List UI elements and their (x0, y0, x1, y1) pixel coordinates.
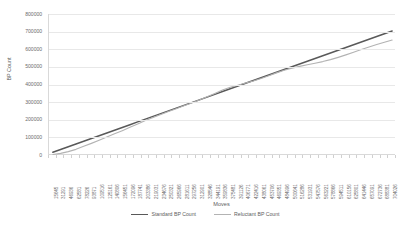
x-tick-label: 31291 (61, 187, 66, 199)
legend-item[interactable]: Reluctant BP Count (214, 211, 279, 217)
x-tick-label: 297256 (192, 184, 197, 199)
x-tick-mark (141, 155, 142, 158)
x-tick-label: 172096 (131, 184, 136, 199)
x-tick-mark (349, 155, 350, 158)
x-tick-mark (356, 155, 357, 158)
x-tick-mark (48, 155, 49, 158)
gridline (49, 102, 395, 103)
x-tick-label: 250321 (169, 184, 174, 199)
x-tick-label: 516286 (300, 184, 305, 199)
x-tick-mark (333, 155, 334, 158)
y-tick-label: 600000 (25, 46, 42, 53)
legend-swatch-icon (131, 214, 148, 215)
x-axis-tick-marks (48, 155, 395, 159)
x-tick-label: 93871 (92, 187, 97, 199)
x-tick-mark (202, 155, 203, 158)
x-tick-mark (187, 155, 188, 158)
x-tick-label: 109516 (100, 184, 105, 199)
x-tick-label: 438061 (262, 184, 267, 199)
x-tick-label: 594511 (339, 185, 344, 199)
x-tick-mark (225, 155, 226, 158)
x-tick-mark (241, 155, 242, 158)
y-tick-label: 800000 (25, 11, 42, 18)
x-tick-mark (171, 155, 172, 158)
x-tick-label: 704026 (393, 184, 398, 199)
x-tick-mark (125, 155, 126, 158)
y-tick-label: 100000 (25, 134, 42, 141)
gridline (49, 14, 395, 15)
x-tick-mark (279, 155, 280, 158)
x-tick-label: 391126 (239, 185, 244, 199)
x-tick-mark (148, 155, 149, 158)
x-tick-mark (133, 155, 134, 158)
x-tick-label: 422416 (254, 184, 259, 199)
x-tick-label: 531931 (308, 184, 313, 199)
x-tick-mark (372, 155, 373, 158)
x-tick-label: 578866 (331, 184, 336, 199)
x-tick-label: 281611 (185, 185, 190, 199)
x-tick-label: 234676 (162, 184, 167, 199)
gridline (49, 85, 395, 86)
x-tick-label: 140806 (115, 184, 120, 199)
gridline (49, 120, 395, 121)
x-tick-mark (87, 155, 88, 158)
x-tick-label: 328546 (208, 184, 213, 199)
x-axis-title: Moves (48, 201, 395, 207)
x-tick-label: 641446 (362, 184, 367, 199)
x-tick-label: 610156 (347, 184, 352, 199)
x-tick-label: 46936 (69, 187, 74, 199)
x-tick-mark (318, 155, 319, 158)
x-tick-label: 547576 (316, 184, 321, 199)
x-tick-mark (380, 155, 381, 158)
legend-label: Reluctant BP Count (234, 211, 279, 217)
gridline (49, 32, 395, 33)
gridlines (49, 14, 395, 154)
x-tick-label: 219031 (154, 184, 159, 199)
x-axis-tick-labels: 1564531291469366258178226938711095161251… (48, 160, 395, 202)
y-tick-label: 700000 (25, 28, 42, 35)
x-tick-label: 125161 (108, 184, 113, 199)
x-tick-mark (248, 155, 249, 158)
x-tick-mark (233, 155, 234, 158)
x-tick-mark (94, 155, 95, 158)
x-tick-label: 78226 (85, 187, 90, 199)
x-tick-mark (387, 155, 388, 158)
x-tick-label: 15645 (54, 187, 59, 199)
legend-swatch-icon (214, 214, 231, 215)
x-tick-label: 187741 (138, 184, 143, 199)
x-tick-mark (63, 155, 64, 158)
x-tick-mark (195, 155, 196, 158)
gridline (49, 67, 395, 68)
x-tick-mark (272, 155, 273, 158)
legend-item[interactable]: Standard BP Count (131, 211, 196, 217)
y-tick-label: 200000 (25, 116, 42, 123)
x-tick-mark (364, 155, 365, 158)
x-tick-mark (310, 155, 311, 158)
y-tick-label: 400000 (25, 81, 42, 88)
x-tick-label: 672736 (378, 184, 383, 199)
gridline (49, 49, 395, 50)
x-tick-mark (156, 155, 157, 158)
x-tick-label: 344191 (216, 184, 221, 199)
x-tick-label: 563221 (324, 184, 329, 199)
y-axis-tick-labels: 0100000200000300000400000500000600000700… (0, 6, 45, 163)
x-tick-label: 359836 (223, 184, 228, 199)
legend-label: Standard BP Count (151, 211, 196, 217)
x-tick-label: 484996 (285, 184, 290, 199)
y-tick-label: 300000 (25, 99, 42, 106)
x-tick-label: 469351 (277, 184, 282, 199)
x-tick-label: 453706 (270, 184, 275, 199)
chart-legend: Standard BP CountReluctant BP Count (0, 211, 411, 217)
x-tick-mark (264, 155, 265, 158)
x-tick-mark (71, 155, 72, 158)
x-tick-mark (179, 155, 180, 158)
x-tick-mark (295, 155, 296, 158)
x-tick-mark (210, 155, 211, 158)
x-tick-mark (164, 155, 165, 158)
x-tick-label: 265966 (177, 184, 182, 199)
gridline (49, 137, 395, 138)
x-tick-label: 312901 (200, 184, 205, 199)
x-tick-mark (117, 155, 118, 158)
x-tick-label: 62581 (77, 187, 82, 199)
x-tick-mark (102, 155, 103, 158)
